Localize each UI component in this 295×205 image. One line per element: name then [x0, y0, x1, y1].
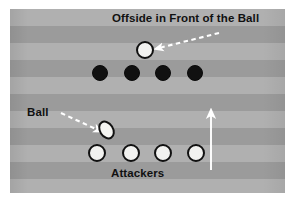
defender-token [124, 65, 140, 81]
soccer-pitch: Offside in Front of the Ball Ball Attack… [10, 9, 285, 193]
defender-token [92, 65, 108, 81]
defender-token [187, 65, 203, 81]
arrow-overlay [10, 9, 285, 193]
attacker-token [88, 144, 106, 162]
offside-attacker-token [136, 41, 154, 59]
title-label: Offside in Front of the Ball [112, 12, 259, 25]
attacker-token [154, 144, 172, 162]
offside-diagram: Offside in Front of the Ball Ball Attack… [0, 0, 295, 205]
defender-token [155, 65, 171, 81]
attacker-token [122, 144, 140, 162]
offside-pointer-arrow [159, 33, 219, 48]
attackers-label: Attackers [111, 167, 164, 180]
ball-label: Ball [27, 106, 49, 119]
attacker-token [187, 144, 205, 162]
ball-pointer-arrow [61, 113, 98, 130]
